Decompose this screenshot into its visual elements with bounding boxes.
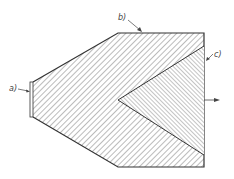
label-c-group: c): [206, 50, 222, 61]
label-a: a): [9, 84, 17, 93]
output-arrow-icon: [204, 98, 220, 102]
label-b-group: b): [118, 13, 142, 32]
diagram-canvas: a) b) c): [0, 0, 234, 179]
label-a-group: a): [9, 84, 30, 93]
label-c: c): [214, 50, 222, 59]
input-plate: [30, 82, 33, 117]
label-b: b): [118, 13, 126, 22]
